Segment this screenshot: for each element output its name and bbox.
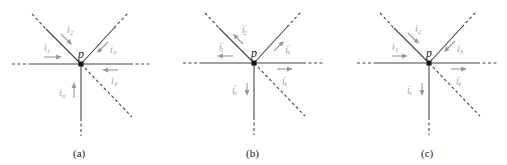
wire-upper-left-dashed bbox=[380, 13, 394, 28]
wire-upper-left-dashed bbox=[205, 13, 219, 28]
current-arrow-i3: i3 bbox=[97, 42, 117, 57]
label-i3-prime: i′3 bbox=[285, 43, 290, 57]
wire-upper-right-dashed bbox=[462, 11, 477, 27]
wire-upper-right-dashed bbox=[114, 12, 129, 28]
node-label: p bbox=[425, 46, 432, 60]
kcl-node-diagrams: p i1 i2 i3 i4 in (a) bbox=[0, 0, 507, 165]
node-label: p bbox=[250, 46, 257, 60]
node-p bbox=[427, 61, 432, 66]
current-arrow-i4-prime: i′4 bbox=[451, 67, 467, 89]
label-i3: i3 bbox=[457, 43, 464, 56]
label-i4-prime: i′4 bbox=[456, 74, 461, 88]
label-in: in bbox=[59, 87, 66, 100]
wire-lower-right-dashed bbox=[254, 63, 305, 116]
node-label: p bbox=[77, 47, 84, 61]
wire-upper-right-dashed bbox=[287, 11, 302, 27]
label-i1: i1 bbox=[392, 41, 398, 54]
caption-b: (b) bbox=[246, 147, 259, 160]
current-arrow-i4-prime: i′4 bbox=[277, 67, 293, 89]
wire-lower-right-dashed bbox=[429, 63, 480, 116]
current-arrow-i1-prime: i′1 bbox=[217, 40, 233, 59]
label-i2: i2 bbox=[415, 23, 422, 36]
current-arrow-i2: i2 bbox=[61, 24, 74, 45]
label-i4-prime: i′4 bbox=[282, 74, 287, 88]
current-arrow-i3-prime: i′3 bbox=[274, 41, 290, 57]
current-arrow-in: in bbox=[59, 82, 77, 100]
current-arrow-i2: i2 bbox=[408, 23, 422, 44]
wire-upper-left bbox=[394, 28, 429, 63]
label-i1-prime: i′1 bbox=[219, 40, 224, 54]
current-arrow-in-prime: i′n bbox=[232, 83, 250, 97]
panel-a: p i1 i2 i3 i4 in (a) bbox=[12, 12, 150, 160]
node-p bbox=[79, 62, 84, 67]
label-i3: i3 bbox=[110, 44, 117, 57]
current-arrow-i1: i1 bbox=[392, 41, 408, 59]
wire-upper-left-dashed bbox=[32, 14, 46, 29]
label-i2-prime: i′2 bbox=[242, 23, 247, 37]
label-i4: i4 bbox=[111, 75, 118, 88]
label-in-prime: i′n bbox=[407, 83, 412, 97]
node-p bbox=[252, 61, 257, 66]
current-arrow-i1: i1 bbox=[44, 42, 62, 60]
current-arrow-i4: i4 bbox=[102, 68, 118, 89]
current-arrow-i2-prime: i′2 bbox=[233, 23, 247, 44]
panel-b: p i′1 i′2 i′3 i′4 i′n bbox=[183, 11, 323, 160]
panel-c: p i1 i2 i3 i′4 i′n ( bbox=[357, 11, 497, 160]
label-i2: i2 bbox=[67, 24, 74, 37]
wire-upper-left bbox=[219, 28, 254, 63]
caption-c: (c) bbox=[421, 147, 434, 160]
label-i1: i1 bbox=[44, 42, 50, 55]
wire-lower-right-dashed bbox=[81, 64, 132, 117]
label-in-prime: i′n bbox=[232, 83, 237, 97]
wire-upper-left bbox=[46, 29, 81, 64]
caption-a: (a) bbox=[73, 147, 86, 160]
current-arrow-in-prime: i′n bbox=[407, 83, 425, 97]
